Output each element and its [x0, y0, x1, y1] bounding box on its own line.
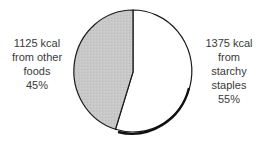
label-other-foods-kcal: 1125 kcal: [4, 36, 70, 50]
label-staples-line3: starchy: [196, 64, 257, 78]
label-other-foods: 1125 kcal from other foods 45%: [4, 36, 70, 92]
pie-chart: 1125 kcal from other foods 45% 1375 kcal…: [0, 0, 257, 141]
label-staples-kcal: 1375 kcal: [196, 36, 257, 50]
label-other-foods-line3: foods: [4, 64, 70, 78]
label-staples-line4: staples: [196, 78, 257, 92]
label-staples-percent: 55%: [196, 92, 257, 106]
label-other-foods-percent: 45%: [4, 78, 70, 92]
label-other-foods-line2: from other: [4, 50, 70, 64]
label-staples-line2: from: [196, 50, 257, 64]
label-starchy-staples: 1375 kcal from starchy staples 55%: [196, 36, 257, 106]
